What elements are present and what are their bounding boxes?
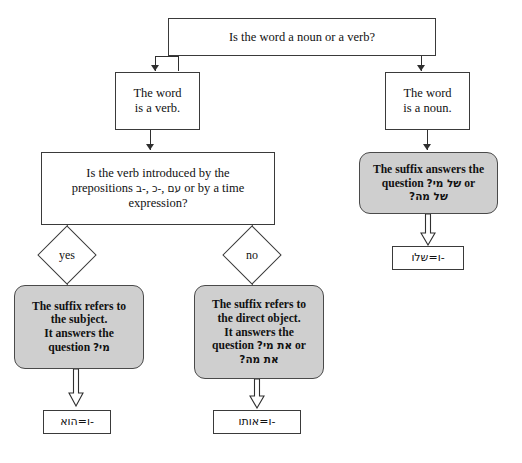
block-arrow-subject-to-result [68, 369, 84, 407]
object-outcome-line4-post: or [292, 339, 306, 352]
noun-label-line1: The word [403, 86, 451, 101]
question-mi: מי? [93, 341, 110, 353]
subject-outcome-line4-pre: question [48, 341, 93, 354]
object-outcome-line1: The suffix refers to [212, 298, 306, 312]
node-result-hu: ‎-ו=הוא [43, 410, 111, 434]
result-hu-label: ‎-ו=הוא [60, 416, 94, 429]
connector-root-to-verb-horizontal [155, 56, 179, 57]
object-outcome-line4: question את מי? or [212, 339, 306, 353]
result-shelo-label: ‎-ו=שלו [411, 252, 444, 265]
flowchart-canvas: Is the word a noun or a verb? The word i… [0, 0, 522, 463]
preposition-ke: ‎-כ [152, 182, 161, 194]
preposition-be: ‎-ב [136, 182, 146, 194]
node-direct-object-suffix-outcome: The suffix refers to the direct object. … [194, 285, 324, 379]
verb-question-line1: Is the verb introduced by the [86, 166, 229, 181]
node-verb-preposition-question: Is the verb introduced by the prepositio… [41, 152, 275, 225]
decision-no: no [231, 234, 273, 276]
result-oto-label: ‎-ו=אותו [239, 416, 276, 429]
node-subject-suffix-outcome: The suffix refers to the subject. It ans… [14, 285, 144, 369]
verb-question-line3: expression? [128, 196, 187, 211]
decision-yes-label: yes [59, 248, 75, 263]
object-outcome-line3: It answers the [224, 326, 294, 340]
decision-no-label: no [246, 248, 258, 263]
decision-yes-label-wrap: yes [46, 234, 88, 276]
arrowhead-root-to-noun [417, 65, 425, 71]
possessive-outcome-line2: question של מי? or [382, 177, 475, 191]
subject-outcome-line3: It answers the [44, 327, 114, 341]
verb-question-line2: prepositions ‎-ב, ‎-כ, עם or by a time [72, 181, 245, 196]
arrowhead-verb-to-question [146, 144, 154, 150]
subject-outcome-line1: The suffix refers to [32, 300, 126, 314]
verb-label-line1: The word [133, 86, 181, 101]
decision-no-label-wrap: no [231, 234, 273, 276]
preposition-im: עם [168, 182, 182, 194]
question-shel-ma: של מה? [409, 190, 448, 202]
subject-outcome-line2: the subject. [51, 313, 108, 327]
arrowhead-noun-to-outcome [423, 144, 431, 150]
node-word-is-verb: The word is a verb. [115, 72, 200, 130]
root-question-label: Is the word a noun or a verb? [229, 30, 375, 45]
node-root-question: Is the word a noun or a verb? [168, 18, 436, 56]
possessive-outcome-line1: The suffix answers the [373, 163, 484, 177]
verb-label-line2: is a verb. [135, 101, 180, 116]
question-shel-mi: של מי? [427, 177, 462, 189]
question-et-mi: את מי? [257, 339, 292, 351]
noun-label-line2: is a noun. [403, 101, 451, 116]
connector-root-to-verb [178, 56, 179, 71]
node-result-shelo: ‎-ו=שלו [392, 246, 464, 270]
node-possessive-suffix-outcome: The suffix answers the question של מי? o… [359, 152, 498, 214]
question-et-ma: את מה? [239, 353, 278, 365]
subject-outcome-line4: question מי? [48, 341, 110, 355]
decision-yes: yes [46, 234, 88, 276]
block-arrow-possessive-to-result [420, 214, 436, 246]
block-arrow-object-to-result [249, 379, 265, 409]
verb-question-line2-pre: prepositions [72, 181, 136, 195]
arrowhead-root-to-verb [151, 65, 159, 71]
node-result-oto: ‎-ו=אותו [213, 410, 301, 434]
object-outcome-line4-pre: question [212, 339, 257, 352]
verb-question-line2-post: or by a time [181, 181, 244, 195]
possessive-outcome-line2-pre: question [382, 177, 427, 190]
object-outcome-line2: the direct object. [217, 312, 300, 326]
node-word-is-noun: The word is a noun. [385, 72, 470, 130]
possessive-outcome-line2-post: or [461, 177, 475, 190]
